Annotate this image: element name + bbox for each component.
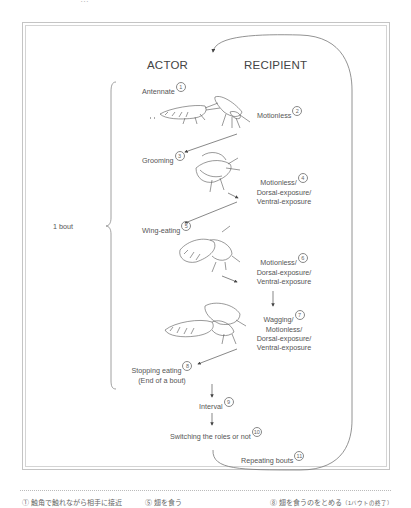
step-2-label: Motionless2: [257, 111, 302, 121]
step-number-badge: 11: [294, 451, 304, 461]
repeat-loop-line: [213, 35, 352, 470]
step-11-label: Repeating bouts11: [241, 456, 304, 466]
step-number-badge: 5: [181, 221, 191, 231]
step-8-label: Stopping eating8 (End of a bout): [126, 366, 198, 385]
arrow-7-to-8: [198, 349, 237, 364]
step-7-label: Wagging/7 Motionless/ Dorsal-exposure/ V…: [245, 315, 323, 352]
arrow-2-to-3: [185, 134, 237, 152]
arrow-4-to-5: [185, 202, 237, 223]
step-4-label: Motionless/4 Dorsal-exposure/ Ventral-ex…: [245, 178, 323, 206]
footer-note-1: ① 触角で触れながら相手に接近: [22, 497, 122, 507]
insect-illustration-motionless: [215, 96, 250, 128]
step-number-badge: 10: [252, 427, 262, 437]
recipient-header: RECIPIENT: [244, 59, 307, 71]
step-number-badge: 2: [292, 106, 302, 116]
arrow-3-to-4: [228, 193, 238, 198]
step-number-badge: 3: [175, 151, 185, 161]
step-10-label: Switching the roles or not10: [170, 432, 262, 442]
insect-illustration-antennate: [150, 103, 220, 124]
footer-note-8: ⑧ 翅を食うのをとめる（1バウトの終了）: [270, 497, 393, 507]
actor-header: ACTOR: [147, 59, 188, 71]
step-3-label: Grooming3: [142, 156, 185, 166]
step-1-label: Antennate1: [142, 87, 186, 97]
step-number-badge: 1: [176, 82, 186, 92]
bout-brace: [106, 82, 116, 389]
insect-illustration-wagging: [165, 303, 246, 344]
footer-divider: [20, 490, 391, 491]
insect-illustration-grooming: [196, 153, 240, 192]
bout-label: 1 bout: [53, 222, 73, 231]
step-number-badge: 6: [298, 253, 308, 263]
step-5-label: Wing-eating5: [142, 226, 191, 236]
footer-note-5: ⑤ 翅を食う: [145, 497, 182, 507]
arrow-5-to-6: [222, 276, 237, 282]
step-number-badge: 4: [298, 173, 308, 183]
step-number-badge: 7: [295, 310, 305, 320]
step-number-badge: 9: [224, 397, 234, 407]
step-6-label: Motionless/6 Dorsal-exposure/ Ventral-ex…: [245, 258, 323, 286]
step-9-label: Interval9: [199, 402, 234, 412]
step-number-badge: 8: [182, 361, 192, 371]
